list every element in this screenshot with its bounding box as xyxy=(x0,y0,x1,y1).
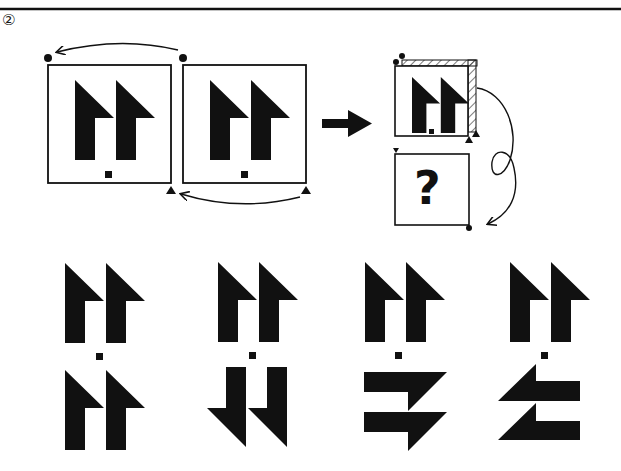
curved-arrow-bottom xyxy=(181,194,300,204)
option-4[interactable] xyxy=(498,262,590,440)
dot-marker xyxy=(179,54,187,62)
option-1[interactable] xyxy=(65,263,145,450)
small-square-marker xyxy=(429,129,434,134)
dot-marker xyxy=(466,225,472,231)
loop-arrow xyxy=(477,88,516,224)
half-arrow-up-icon xyxy=(116,80,155,160)
triangle-marker xyxy=(393,148,399,153)
half-arrow-up-icon xyxy=(251,80,290,160)
triangle-marker xyxy=(465,136,473,143)
option-3[interactable] xyxy=(364,262,447,451)
unknown-symbol: ? xyxy=(414,165,441,211)
small-square-marker xyxy=(241,171,248,178)
option-2[interactable] xyxy=(207,262,298,447)
half-arrow-up-icon xyxy=(210,80,249,160)
triangle-marker xyxy=(166,186,176,194)
example-panel-2 xyxy=(183,65,306,183)
folded-panel xyxy=(395,60,477,136)
dot-marker xyxy=(399,53,405,59)
dot-marker xyxy=(393,59,399,65)
small-square-marker xyxy=(105,171,112,178)
curved-arrow-top xyxy=(57,43,178,52)
puzzle-diagram xyxy=(0,0,621,471)
example-panel-1 xyxy=(48,65,171,183)
triangle-marker xyxy=(301,186,311,194)
transform-arrow-icon xyxy=(322,110,372,137)
dot-marker xyxy=(44,54,52,62)
half-arrow-up-icon xyxy=(75,80,114,160)
